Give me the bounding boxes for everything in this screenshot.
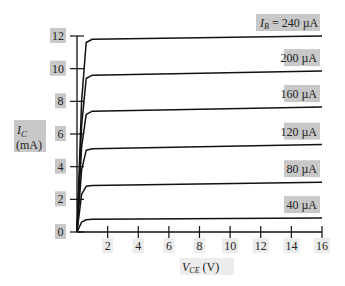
series-label: 160 µA — [280, 87, 317, 101]
x-tick-label: 12 — [255, 239, 267, 253]
x-tick-label: 4 — [135, 239, 141, 253]
x-tick-label: 14 — [285, 239, 297, 253]
y-tick-label: 8 — [58, 94, 64, 108]
y-tick-label: 12 — [52, 29, 64, 43]
y-axis-label: IC (mA) — [14, 120, 46, 152]
x-tick-label: 16 — [316, 239, 328, 253]
y-tick-label: 6 — [58, 127, 64, 141]
svg-text:VCE (V): VCE (V) — [182, 260, 219, 275]
series-label: 80 µA — [286, 162, 317, 176]
transistor-characteristic-chart: 024681012 246810121416 IB = 240 µA200 µA… — [0, 0, 345, 286]
y-tick-label: 0 — [58, 225, 64, 239]
series-label: 40 µA — [286, 198, 317, 212]
x-tick-label: 10 — [224, 239, 236, 253]
series-label: 120 µA — [280, 125, 317, 139]
svg-text:(mA): (mA) — [16, 138, 42, 152]
x-axis-label: VCE (V) — [180, 258, 234, 275]
x-tick-label: 8 — [197, 239, 203, 253]
x-axis-ticks: 246810121416 — [102, 226, 330, 253]
series-label: IB = 240 µA — [259, 16, 319, 31]
x-tick-label: 2 — [105, 239, 111, 253]
y-tick-label: 4 — [58, 160, 64, 174]
x-tick-label: 6 — [166, 239, 172, 253]
series-label: 200 µA — [280, 51, 317, 65]
y-tick-label: 2 — [58, 192, 64, 206]
y-tick-label: 10 — [52, 62, 64, 76]
